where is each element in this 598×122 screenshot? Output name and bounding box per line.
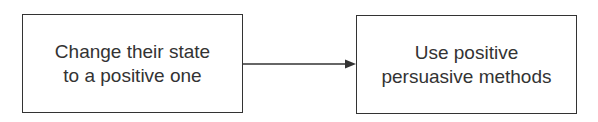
node-persuasive-methods: Use positive persuasive methods [356,15,577,114]
node-label-line: Use positive [415,42,519,63]
node-label: Use positive persuasive methods [381,41,551,89]
node-label-line: persuasive methods [381,66,551,87]
arrowhead-icon [345,60,356,69]
